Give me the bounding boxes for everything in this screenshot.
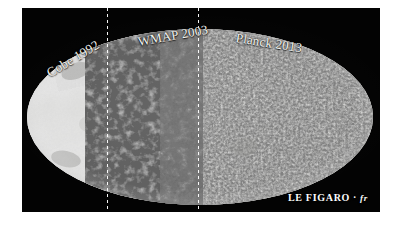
le-figaro-watermark: LE FIGARO · fr	[288, 192, 368, 203]
divider-cobe-wmap	[107, 8, 108, 212]
figure-root: Cobe 1992 WMAP 2003 Planck 2013 LE FIGAR…	[0, 0, 400, 228]
watermark-suffix: fr	[360, 193, 368, 203]
watermark-separator: ·	[352, 192, 358, 203]
photo-panel: Cobe 1992 WMAP 2003 Planck 2013 LE FIGAR…	[22, 8, 380, 212]
watermark-brand: LE FIGARO	[288, 192, 350, 203]
